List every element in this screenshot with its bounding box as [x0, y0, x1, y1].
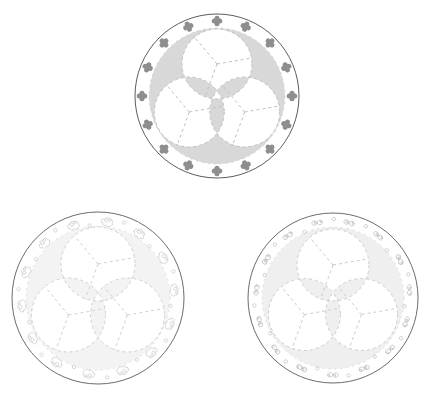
rim-motif-figure-eight-knot: [256, 316, 264, 327]
lobe-spoke: [233, 112, 245, 145]
lobe-spoke: [245, 106, 279, 112]
rim-accent-dot: [54, 229, 57, 232]
interstitial-shading: [149, 28, 285, 164]
rim-motif-scroll-cloud-curl: [83, 369, 96, 379]
rim-motif-figure-eight-knot: [311, 219, 322, 226]
lobe-spoke: [217, 58, 251, 64]
rim-motif-figure-eight-knot: [373, 231, 384, 241]
rim-motif-scroll-cloud-curl: [26, 331, 40, 346]
rim-motif-four-petal-floret: [239, 158, 253, 172]
lobe-spoke: [333, 259, 368, 265]
rim-accent-dot: [253, 304, 256, 307]
medallion-illustration: [0, 0, 430, 401]
rim-accent-dot: [347, 374, 350, 377]
lobe-spoke: [195, 37, 217, 64]
rim-motif-four-petal-floret: [141, 60, 155, 74]
bottom-left-medallion: [12, 212, 184, 384]
rim-motif-four-petal-floret: [141, 118, 155, 132]
rim-motif-figure-eight-knot: [407, 285, 413, 296]
rim-motif-scroll-cloud-curl: [169, 284, 179, 297]
rim-accent-dot: [105, 376, 108, 379]
rim-motif-four-petal-floret: [181, 158, 195, 172]
rim-accent-dot: [164, 339, 167, 342]
lobe-spoke: [74, 236, 98, 264]
rim-motif-four-petal-floret: [287, 91, 298, 102]
rim-motif-four-petal-floret: [181, 20, 195, 34]
rim-accent-dot: [40, 353, 43, 356]
lobe-spoke: [292, 315, 304, 349]
rim-motif-figure-eight-knot: [271, 344, 282, 355]
shade-region: [262, 227, 404, 369]
lobe-spoke: [281, 287, 304, 315]
rim-motif-figure-eight-knot: [385, 344, 396, 355]
lobe-spoke: [45, 287, 69, 315]
rim-motif-figure-eight-knot: [395, 254, 404, 265]
rim-motif-four-petal-floret: [279, 60, 293, 74]
rim-motif-four-petal-floret: [212, 166, 223, 177]
rim-motif-figure-eight-knot: [328, 372, 338, 377]
rim-accent-dot: [17, 288, 20, 291]
lobe-spoke: [177, 112, 189, 145]
rim-accent-dot: [407, 273, 410, 276]
rim-motif-four-petal-floret: [279, 118, 293, 132]
rim-motif-scroll-cloud-curl: [101, 217, 114, 227]
lobe-spoke: [56, 315, 69, 350]
rim-accent-dot: [123, 221, 126, 224]
lobe-spoke: [98, 258, 134, 264]
rim-accent-dot: [148, 245, 151, 248]
rim-motif-scroll-cloud-curl: [17, 300, 27, 313]
lobe-spoke: [310, 237, 333, 265]
lobe-spoke: [167, 85, 189, 112]
rim-motif-four-petal-floret: [137, 91, 148, 102]
rim-accent-dot: [385, 249, 388, 252]
rim-motif-figure-eight-knot: [262, 254, 271, 265]
rim-accent-dot: [172, 270, 175, 273]
lobe-spoke: [115, 315, 128, 350]
rim-accent-dot: [399, 337, 402, 340]
rim-accent-dot: [284, 360, 287, 363]
rim-motif-figure-eight-knot: [282, 231, 293, 241]
top-medallion: [135, 14, 299, 178]
rim-motif-figure-eight-knot: [253, 284, 259, 295]
lobe-spoke: [362, 308, 397, 314]
rim-motif-four-petal-floret: [212, 16, 223, 27]
rim-motif-figure-eight-knot: [358, 364, 369, 373]
shade-region: [149, 28, 285, 164]
lobe-spoke: [349, 315, 361, 349]
rim-accent-dot: [364, 224, 367, 227]
rim-motif-figure-eight-knot: [343, 219, 354, 226]
rim-motif-four-petal-floret: [239, 20, 253, 34]
rim-motif-figure-eight-knot: [402, 316, 410, 327]
rim-motif-figure-eight-knot: [296, 364, 307, 373]
rim-accent-dot: [332, 217, 335, 220]
bottom-right-medallion: [248, 213, 418, 383]
rim-accent-dot: [273, 243, 276, 246]
interstitial-shading: [262, 227, 404, 369]
drawing-canvas: [0, 0, 430, 401]
lobe-spoke: [127, 309, 163, 315]
